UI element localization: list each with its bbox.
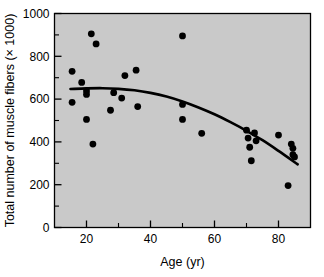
data-point <box>248 157 255 164</box>
data-point <box>78 79 85 86</box>
data-point <box>69 68 76 75</box>
data-point <box>285 182 292 189</box>
data-point <box>93 40 100 47</box>
data-point <box>290 145 297 152</box>
y-tick-label: 600 <box>29 92 49 106</box>
data-point <box>134 103 141 110</box>
x-axis-title: Age (yr) <box>160 255 204 269</box>
data-point <box>118 95 125 102</box>
y-axis-title: Total number of muscle fibers (× 1000) <box>3 14 17 228</box>
x-tick-label: 40 <box>144 232 158 246</box>
data-point <box>243 127 250 134</box>
data-point <box>110 89 117 96</box>
data-point <box>69 99 76 106</box>
chart-figure: 0200400600800100020406080Age (yr)Total n… <box>0 0 324 277</box>
data-point <box>179 33 186 40</box>
x-tick-label: 60 <box>208 232 222 246</box>
y-tick-label: 800 <box>29 50 49 64</box>
data-point <box>179 101 186 108</box>
data-point <box>251 130 258 137</box>
data-point <box>246 144 253 151</box>
data-point <box>245 135 252 142</box>
data-point <box>133 67 140 74</box>
data-point <box>88 30 95 37</box>
data-point <box>122 72 129 79</box>
data-point <box>83 116 90 123</box>
data-point <box>179 116 186 123</box>
data-point <box>107 107 114 114</box>
y-tick-label: 1000 <box>23 7 50 21</box>
y-tick-label: 0 <box>43 221 50 235</box>
y-tick-label: 200 <box>29 178 49 192</box>
data-point <box>198 130 205 137</box>
x-tick-label: 20 <box>80 232 94 246</box>
data-point <box>83 91 90 98</box>
data-point <box>291 153 298 160</box>
data-point <box>90 141 97 148</box>
y-tick-label: 400 <box>29 135 49 149</box>
x-tick-label: 80 <box>272 232 286 246</box>
data-point <box>253 137 260 144</box>
scatter-plot: 0200400600800100020406080Age (yr)Total n… <box>0 0 324 277</box>
data-point <box>275 132 282 139</box>
